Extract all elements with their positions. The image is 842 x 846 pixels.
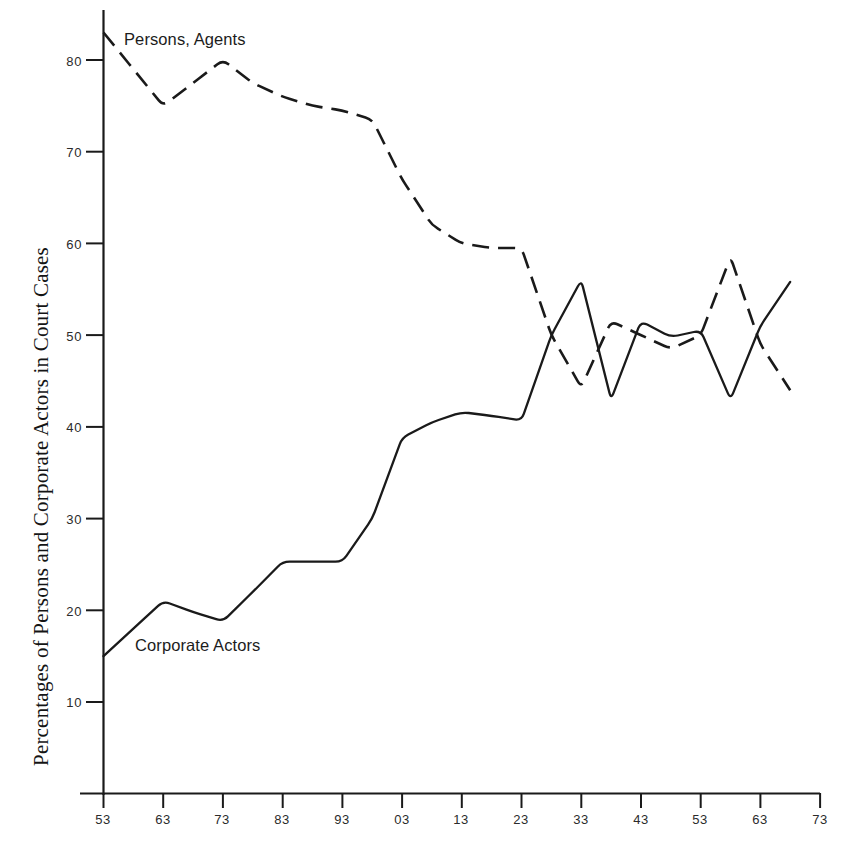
series-line-corporate-actors: [104, 282, 791, 656]
plot-canvas: [0, 0, 842, 846]
series-line-persons-agents: [104, 33, 791, 391]
x-tick-marks: [104, 793, 821, 808]
chart-figure: Percentages of Persons and Corporate Act…: [0, 0, 842, 846]
y-tick-marks: [86, 60, 103, 702]
